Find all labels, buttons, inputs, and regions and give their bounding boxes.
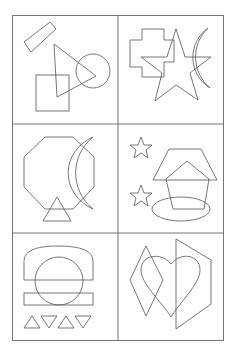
- circle-shape: [76, 54, 110, 88]
- shapes-figure: [0, 0, 238, 355]
- hexagon-shape: [176, 239, 211, 329]
- panel-6: [130, 239, 211, 329]
- star-shape: [130, 137, 152, 158]
- panel-3: [24, 137, 94, 221]
- panel-2: [130, 28, 211, 101]
- trapezoid-shape: [153, 149, 217, 180]
- triangle-down-shape: [75, 316, 91, 328]
- panel-4: [130, 137, 217, 221]
- rotated-rectangle-shape: [24, 22, 56, 52]
- panel-grid: [13, 16, 224, 341]
- star-shape: [130, 185, 152, 206]
- panel-1: [24, 22, 110, 111]
- panel-5: [24, 246, 93, 328]
- circle-shape: [35, 257, 83, 305]
- crescent-shape: [193, 28, 210, 88]
- triangle-up-shape: [24, 316, 40, 328]
- triangle-up-shape: [58, 316, 74, 328]
- crescent-shape: [68, 137, 93, 209]
- triangle-down-shape: [41, 316, 57, 328]
- triangle-shape: [54, 44, 96, 97]
- rectangle-shape: [24, 293, 93, 305]
- cross-shape: [130, 29, 174, 77]
- pentagon-shape: [166, 161, 209, 209]
- star-shape: [141, 29, 211, 101]
- dome-shape: [24, 246, 93, 280]
